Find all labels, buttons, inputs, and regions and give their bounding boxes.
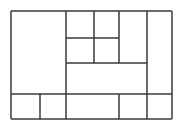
- diagram-background: [0, 0, 185, 128]
- diagram-svg-surface: [0, 0, 185, 128]
- rectangle-partition-diagram: [0, 0, 185, 128]
